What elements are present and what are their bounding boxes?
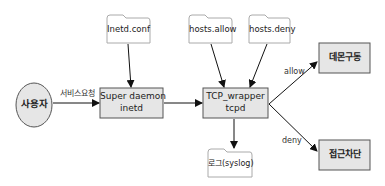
- user-label: 사용자: [16, 99, 52, 110]
- deny-label: deny: [282, 136, 302, 145]
- document-hosts-allow-label: hosts.allow: [189, 25, 232, 35]
- arrow-hosts-deny-to-tcp: [250, 44, 267, 87]
- daemon-start-label: 데몬구동: [319, 52, 370, 62]
- arrow-hosts-allow-to-tcp: [211, 44, 224, 87]
- document-inetd-conf-label: Inetd.conf: [107, 25, 150, 35]
- service-request-label: 서비스요청: [56, 89, 98, 98]
- access-block-label: 접근차단: [319, 149, 370, 159]
- document-hosts-deny-label: hosts.deny: [249, 25, 290, 35]
- document-syslog-label: 로그(syslog): [208, 159, 252, 168]
- tcp-wrapper-line1: TCP_wrapper: [203, 91, 268, 101]
- allow-label: allow: [284, 67, 305, 76]
- super-daemon-line1: Super daemon: [100, 91, 163, 101]
- super-daemon-line2: inetd: [100, 103, 163, 113]
- tcp-wrapper-line2: tcpd: [203, 103, 268, 113]
- arrow-inetd-conf-to-super: [128, 44, 131, 87]
